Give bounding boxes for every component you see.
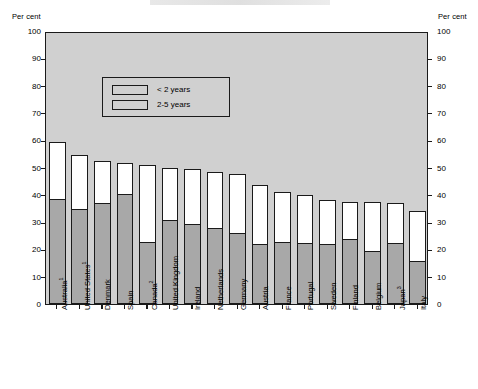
y-axis-right-tick-20: 20 bbox=[437, 246, 446, 254]
plot-area: < 2 years 2-5 years bbox=[45, 32, 428, 305]
bar-ireland bbox=[184, 169, 201, 304]
y-axis-left-tick-40: 40 bbox=[15, 192, 41, 200]
x-tick-mark-16 bbox=[417, 305, 418, 309]
legend-swatch-lt-2-years bbox=[112, 85, 148, 95]
x-axis-label-portugal: Portugal bbox=[307, 282, 315, 310]
legend-label-lt-2-years: < 2 years bbox=[157, 86, 190, 94]
x-axis-label-denmark: Denmark bbox=[104, 279, 112, 310]
footnote-marker: 1 bbox=[58, 278, 64, 281]
x-tick-mark-8 bbox=[237, 305, 238, 309]
y-axis-right-tick-0: 0 bbox=[437, 301, 441, 309]
x-tick-mark-3 bbox=[124, 305, 125, 309]
x-tick-mark-10 bbox=[282, 305, 283, 309]
x-axis-label-netherlands: Netherlands bbox=[217, 269, 225, 310]
x-axis-label-finland: Finland bbox=[352, 285, 360, 310]
x-axis-label-france: France bbox=[285, 286, 293, 310]
y-axis-left-tick-60: 60 bbox=[15, 137, 41, 145]
y-axis-right-tick-40: 40 bbox=[437, 192, 446, 200]
x-axis-label-ireland: Ireland bbox=[194, 287, 202, 310]
x-axis-label-spain: Spain bbox=[127, 291, 135, 310]
footnote-marker: 1 bbox=[81, 261, 87, 264]
y-axis-left-tick-0: 0 bbox=[15, 301, 41, 309]
x-axis-label-germany: Germany bbox=[240, 279, 248, 310]
y-axis-left-tick-20: 20 bbox=[15, 246, 41, 254]
y-axis-right-unit-label: Per cent bbox=[438, 12, 467, 21]
x-tick-mark-0 bbox=[56, 305, 57, 309]
y-tick-mark-right-70 bbox=[428, 113, 432, 114]
x-tick-mark-1 bbox=[79, 305, 80, 309]
bar-italy bbox=[409, 211, 426, 304]
legend-label-2-5-years: 2-5 years bbox=[157, 101, 190, 109]
y-axis-right-tick-80: 80 bbox=[437, 83, 446, 91]
y-tick-mark-right-50 bbox=[428, 168, 432, 169]
x-tick-mark-4 bbox=[146, 305, 147, 309]
y-tick-mark-right-90 bbox=[428, 59, 432, 60]
y-axis-left-tick-90: 90 bbox=[15, 55, 41, 63]
x-tick-mark-12 bbox=[327, 305, 328, 309]
y-axis-left-tick-30: 30 bbox=[15, 219, 41, 227]
x-tick-mark-5 bbox=[169, 305, 170, 309]
y-axis-left-tick-50: 50 bbox=[15, 165, 41, 173]
x-tick-mark-15 bbox=[394, 305, 395, 309]
y-axis-left-unit-label: Per cent bbox=[12, 12, 41, 21]
y-axis-right-tick-50: 50 bbox=[437, 165, 446, 173]
y-tick-mark-right-20 bbox=[428, 250, 432, 251]
x-axis-label-austria: Austria bbox=[262, 286, 270, 310]
y-axis-left-tick-80: 80 bbox=[15, 83, 41, 91]
x-tick-mark-7 bbox=[214, 305, 215, 309]
y-axis-right-tick-30: 30 bbox=[437, 219, 446, 227]
footnote-marker: 3 bbox=[396, 286, 402, 289]
y-axis-right-tick-90: 90 bbox=[437, 55, 446, 63]
y-axis-right-tick-60: 60 bbox=[437, 137, 446, 145]
legend-swatch-2-5-years bbox=[112, 100, 148, 110]
y-axis-left-tick-10: 10 bbox=[15, 274, 41, 282]
y-axis-right-tick-70: 70 bbox=[437, 110, 446, 118]
x-axis-label-united-kingdom: United Kingdom bbox=[172, 256, 180, 310]
y-tick-mark-right-40 bbox=[428, 195, 432, 196]
y-axis-right-tick-10: 10 bbox=[437, 274, 446, 282]
y-axis-right-tick-100: 100 bbox=[437, 28, 450, 36]
x-axis-label-belgium: Belgium bbox=[375, 283, 383, 310]
x-axis-label-italy: Italy bbox=[420, 296, 428, 310]
y-axis-left-tick-70: 70 bbox=[15, 110, 41, 118]
x-axis-label-sweden: Sweden bbox=[330, 283, 338, 310]
y-axis-left-tick-100: 100 bbox=[15, 28, 41, 36]
bar-segment-lt-2-years bbox=[118, 194, 133, 303]
cropped-title-artifact bbox=[150, 0, 330, 5]
x-axis-label-united-states: United States1 bbox=[82, 261, 91, 310]
footnote-marker: 2 bbox=[148, 280, 154, 283]
bar-spain bbox=[117, 163, 134, 304]
bar-chart: Per cent Per cent 0010102020303040405050… bbox=[0, 0, 478, 389]
x-axis-label-australia: Australia1 bbox=[59, 278, 68, 311]
x-axis-label-canada: Canada2 bbox=[149, 280, 158, 310]
legend: < 2 years 2-5 years bbox=[102, 77, 230, 117]
x-tick-mark-14 bbox=[372, 305, 373, 309]
y-tick-mark-right-60 bbox=[428, 141, 432, 142]
x-axis-label-japan: Japan3 bbox=[397, 286, 406, 310]
y-tick-mark-right-30 bbox=[428, 223, 432, 224]
y-tick-mark-right-10 bbox=[428, 277, 432, 278]
y-tick-mark-right-80 bbox=[428, 86, 432, 87]
